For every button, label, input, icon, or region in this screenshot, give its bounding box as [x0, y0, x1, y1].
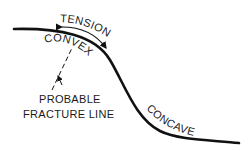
- convex-label: CONVEX: [43, 31, 96, 58]
- slope-curve: [14, 29, 239, 143]
- fracture-label-line2: FRACTURE LINE: [23, 108, 114, 120]
- fracture-leader-arrow: [58, 76, 62, 85]
- fracture-line: [52, 48, 72, 90]
- concave-label: CONCAVE: [145, 102, 197, 138]
- fracture-label-line1: PROBABLE: [39, 93, 101, 105]
- slope-diagram: TENSION CONVEX PROBABLE FRACTURE LINE CO…: [0, 0, 250, 165]
